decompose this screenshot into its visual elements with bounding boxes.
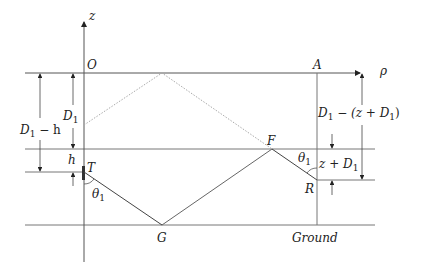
point-f-label: F — [266, 134, 276, 148]
theta-arc-receiver — [307, 168, 317, 173]
ray-g-to-f — [162, 149, 272, 225]
z-plus-d1-label: z + D1 — [318, 157, 358, 173]
image-ray-dotted — [84, 73, 272, 149]
right-top-dimension-label: D1 − (z + D1) — [317, 106, 400, 122]
theta-arc-transmitter — [84, 179, 94, 184]
point-t-label: T — [87, 161, 96, 175]
d1-minus-h-label: D1 − h — [19, 123, 61, 139]
theta-transmitter-label: θ1 — [92, 187, 105, 203]
geometry-svg: z ρ O A T R G F Ground D1 − h D1 h D1 − … — [0, 0, 424, 275]
z-axis-label: z — [88, 9, 96, 23]
theta-receiver-label: θ1 — [298, 151, 311, 167]
d1-label: D1 — [62, 109, 78, 125]
rho-axis-label: ρ — [379, 64, 387, 78]
transmitter-antenna — [82, 166, 85, 180]
h-label: h — [68, 153, 76, 167]
ground-label: Ground — [292, 231, 338, 245]
point-g-label: G — [157, 231, 167, 245]
point-a-label: A — [312, 58, 322, 72]
origin-label: O — [87, 58, 97, 72]
diagram-canvas: z ρ O A T R G F Ground D1 − h D1 h D1 − … — [0, 0, 424, 275]
point-r-label: R — [304, 182, 314, 196]
